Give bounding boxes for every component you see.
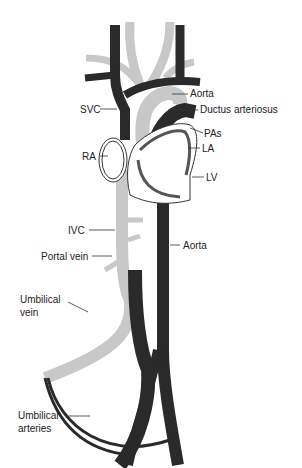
label-umbilical-vein-1: Umbilical [20, 294, 61, 305]
label-ductus-arteriosus: Ductus arteriosus [200, 104, 278, 115]
label-svc: SVC [80, 104, 101, 115]
label-umbilical-vein-2: vein [20, 307, 38, 318]
heart [99, 124, 197, 204]
label-pas: PAs [204, 128, 222, 139]
fetal-circulation-diagram [0, 0, 302, 468]
label-ivc: IVC [68, 225, 85, 236]
label-aorta-top: Aorta [190, 88, 214, 99]
label-la: LA [202, 143, 214, 154]
label-umbilical-arteries-2: arteries [18, 423, 51, 434]
label-aorta-bottom: Aorta [183, 240, 207, 251]
label-portal-vein: Portal vein [41, 251, 88, 262]
label-lv: LV [206, 172, 218, 183]
label-ra: RA [82, 151, 96, 162]
label-umbilical-arteries-1: Umbilical [18, 410, 59, 421]
